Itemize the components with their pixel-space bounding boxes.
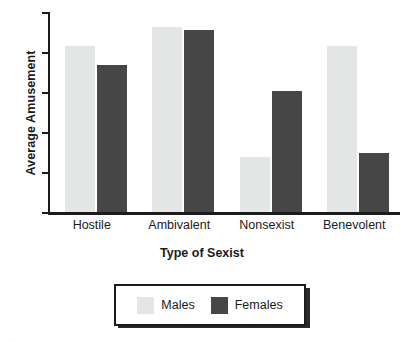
- legend-swatch-males: [137, 297, 154, 314]
- bar-ambivalent-females: [184, 30, 214, 212]
- legend: MalesFemales: [114, 284, 306, 326]
- bar-hostile-males: [65, 46, 95, 212]
- y-tick-1: 1: [42, 212, 48, 214]
- bar-hostile-females: [97, 65, 127, 212]
- bar-benevolent-females: [359, 153, 389, 212]
- scan-artifact: ....: [4, 335, 48, 342]
- bar-group-container: [50, 12, 400, 212]
- y-tick-2: 2: [42, 172, 48, 174]
- y-tick-4: 4: [42, 92, 48, 94]
- y-tick-6: 6: [42, 12, 48, 14]
- y-tick-5: 5: [42, 52, 48, 54]
- bar-nonsexist-females: [272, 91, 302, 212]
- x-axis-line: [48, 212, 400, 215]
- chart-figure: Average Amusement 123456 HostileAmbivale…: [0, 0, 404, 347]
- legend-item-males: Males: [137, 297, 194, 314]
- bar-benevolent-males: [327, 46, 357, 212]
- y-axis-title: Average Amusement: [24, 18, 40, 208]
- legend-label-females: Females: [235, 299, 283, 312]
- bar-nonsexist-males: [240, 157, 270, 212]
- legend-item-females: Females: [211, 297, 283, 314]
- legend-label-males: Males: [161, 299, 194, 312]
- x-label-benevolent: Benevolent: [301, 218, 404, 234]
- plot-area: 123456 HostileAmbivalentNonsexistBenevol…: [48, 12, 400, 214]
- y-tick-3: 3: [42, 132, 48, 134]
- legend-swatch-females: [211, 297, 228, 314]
- bar-ambivalent-males: [152, 27, 182, 212]
- x-axis-title: Type of Sexist: [0, 246, 404, 260]
